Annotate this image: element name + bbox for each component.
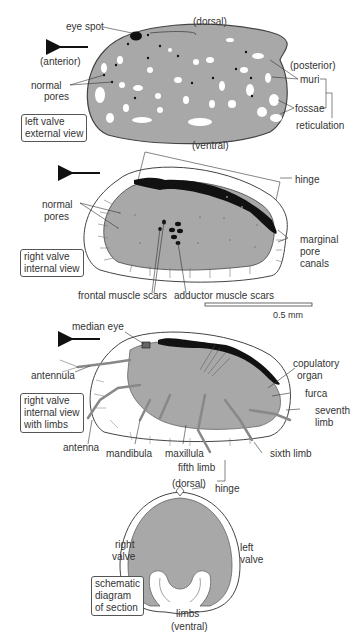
label-ventral: (ventral) xyxy=(192,140,229,151)
label-marginal-2: pore xyxy=(300,246,320,257)
label-mandibula: mandibula xyxy=(106,448,152,459)
caption-line: of section xyxy=(95,602,140,614)
label-antenna: antenna xyxy=(63,442,99,453)
label-normal-pores-2b: pores xyxy=(44,211,69,222)
scale-bar xyxy=(205,303,312,306)
label-anterior: (anterior) xyxy=(40,56,81,67)
caption-line: right valve xyxy=(24,395,80,407)
label-left-valve-1: left xyxy=(240,542,253,553)
label-fifth-limb: fifth limb xyxy=(178,462,215,473)
scale-bar-label: 0.5 mm xyxy=(273,310,303,321)
label-posterior: (posterior) xyxy=(290,60,336,71)
caption-line: diagram xyxy=(95,590,140,602)
label-median-eye: median eye xyxy=(72,321,124,332)
caption-right-valve-internal: right valve internal view xyxy=(20,249,84,277)
label-frontal-muscle-scars: frontal muscle scars xyxy=(78,290,167,301)
label-muri: muri xyxy=(300,74,319,85)
label-copulatory-1: copulatory xyxy=(293,358,339,369)
caption-line: external view xyxy=(25,128,83,140)
label-marginal-3: canals xyxy=(300,258,329,269)
left-valve-external xyxy=(60,24,332,143)
label-maxillula: maxillula xyxy=(165,448,204,459)
caption-left-valve-external: left valve external view xyxy=(21,114,87,142)
caption-line: with limbs xyxy=(24,419,80,431)
label-reticulation: reticulation xyxy=(296,120,344,131)
label-dorsal: (dorsal) xyxy=(193,16,227,27)
caption-line: left valve xyxy=(25,116,83,128)
label-left-valve-2: valve xyxy=(240,554,263,565)
label-seventh-limb-1: seventh xyxy=(315,405,350,416)
label-antennula: antennula xyxy=(31,370,75,381)
label-copulatory-2: organ xyxy=(297,370,323,381)
caption-line: internal view xyxy=(24,263,80,275)
label-marginal-1: marginal xyxy=(300,234,338,245)
label-eye-spot: eye spot xyxy=(66,21,104,32)
label-normal-pores-2a: normal xyxy=(42,199,73,210)
label-hinge: hinge xyxy=(295,174,319,185)
label-right-valve-2: valve xyxy=(112,551,135,562)
caption-line: internal view xyxy=(24,407,80,419)
label-dorsal-section: (dorsal) xyxy=(172,478,206,489)
label-normal-pores-1a: normal xyxy=(31,80,62,91)
label-ventral-section: (ventral) xyxy=(171,621,208,632)
caption-schematic-section: schematic diagram of section xyxy=(91,576,144,616)
caption-right-valve-with-limbs: right valve internal view with limbs xyxy=(20,393,84,433)
label-limbs: limbs xyxy=(176,608,199,619)
label-right-valve-1: right xyxy=(115,539,134,550)
label-sixth-limb: sixth limb xyxy=(270,448,312,459)
right-valve-internal xyxy=(72,152,312,306)
caption-line: right valve xyxy=(24,251,80,263)
label-fossae: fossae xyxy=(295,103,324,114)
median-eye-icon xyxy=(142,342,150,348)
label-hinge-section: hinge xyxy=(215,483,239,494)
label-furca: furca xyxy=(305,388,327,399)
label-normal-pores-1b: pores xyxy=(44,91,69,102)
label-adductor-muscle-scars: adductor muscle scars xyxy=(174,290,274,301)
caption-line: schematic xyxy=(95,578,140,590)
label-seventh-limb-2: limb xyxy=(315,417,333,428)
